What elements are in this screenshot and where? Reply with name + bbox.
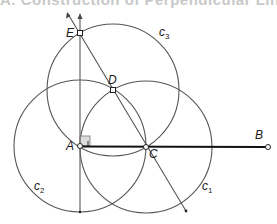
label-c: C <box>149 147 158 161</box>
point-a[interactable] <box>78 144 83 149</box>
point-d[interactable] <box>111 88 116 93</box>
arrow-up-icon <box>78 13 83 19</box>
segment-ab <box>80 147 268 148</box>
label-e: E <box>66 26 75 40</box>
label-d: D <box>108 73 117 87</box>
point-e[interactable] <box>78 31 83 36</box>
label-c3: c3 <box>159 25 170 41</box>
construction-diagram: A B C D E c3 c2 c1 <box>0 0 277 224</box>
label-c1: c1 <box>202 179 213 195</box>
point-c[interactable] <box>144 145 149 150</box>
line-ce <box>68 14 186 211</box>
label-b: B <box>255 128 263 142</box>
point-b[interactable] <box>266 145 271 150</box>
label-a: A <box>65 139 74 153</box>
label-c2: c2 <box>34 179 45 195</box>
